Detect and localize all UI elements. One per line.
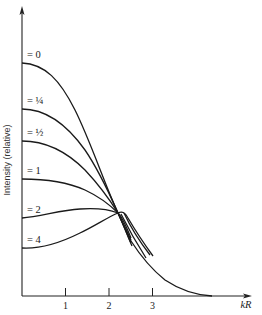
label-curve-0: = 0 — [27, 49, 41, 60]
bundle-line-b — [121, 214, 146, 258]
merged-tail — [131, 241, 212, 296]
x-axis-label: kR — [240, 299, 252, 310]
label-curve-4: = 4 — [27, 234, 42, 245]
label-curve-2: = 2 — [27, 204, 41, 215]
curve-4 — [22, 212, 153, 256]
axes — [20, 6, 253, 299]
x-tick-label-1: 1 — [63, 300, 68, 311]
curves — [22, 63, 212, 296]
label-curve-half: = ½ — [27, 127, 44, 138]
label-curve-1: = 1 — [27, 165, 41, 176]
curve-half — [22, 141, 131, 241]
label-curve-quarter: = ¼ — [27, 95, 44, 106]
y-axis-label: Intensity (relative) — [2, 124, 12, 195]
intensity-chart: 1 2 3 kR Intensity (relative) = 0 = ¼ = … — [0, 0, 262, 315]
curve-0 — [22, 63, 132, 246]
x-tick-label-3: 3 — [150, 300, 155, 311]
x-ticks: 1 2 3 — [63, 288, 155, 311]
x-tick-label-2: 2 — [107, 300, 112, 311]
